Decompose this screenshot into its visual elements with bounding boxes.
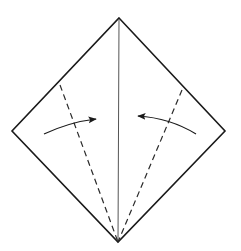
right-fold-arrow-icon bbox=[138, 116, 196, 134]
left-fold-arrow-icon bbox=[44, 119, 96, 134]
left-valley-fold-line bbox=[60, 85, 118, 242]
right-valley-fold-line bbox=[118, 90, 182, 242]
center-crease-line bbox=[118, 19, 119, 241]
origami-diagram bbox=[0, 0, 241, 251]
